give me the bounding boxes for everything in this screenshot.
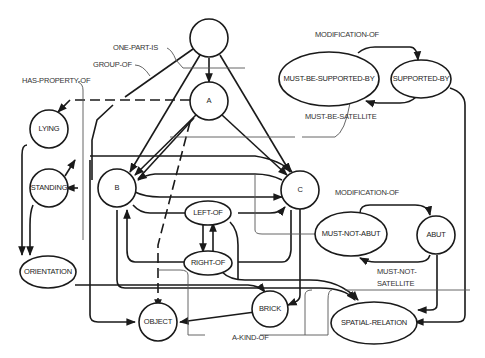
label-has-property-of: HAS-PROPERTY-OF (22, 76, 91, 85)
label-modification-of-bottom: MODIFICATION-OF (335, 188, 400, 197)
node-supported-by[interactable]: SUPPORTED-BY (391, 60, 451, 98)
svg-text:MUST-BE-SUPPORTED-BY: MUST-BE-SUPPORTED-BY (284, 74, 375, 83)
label-must-not-satellite-line2: SATELLITE (377, 279, 414, 288)
node-must-not-abut[interactable]: MUST-NOT-ABUT (315, 212, 387, 256)
svg-text:STANDING: STANDING (31, 183, 68, 192)
node-a[interactable]: A (190, 82, 228, 120)
label-one-part-is: ONE-PART-IS (113, 43, 158, 52)
node-abut[interactable]: ABUT (417, 216, 455, 254)
node-left-of[interactable]: LEFT-OF (185, 201, 231, 225)
label-a-kind-of: A-KIND-OF (232, 333, 269, 342)
node-spatial-relation[interactable]: SPATIAL-RELATION (331, 302, 417, 344)
label-group-of: GROUP-OF (93, 60, 132, 69)
node-lying[interactable]: LYING (30, 110, 68, 148)
node-standing[interactable]: STANDING (30, 169, 68, 207)
svg-text:OBJECT: OBJECT (144, 317, 173, 326)
svg-text:A: A (207, 96, 212, 105)
svg-text:SUPPORTED-BY: SUPPORTED-BY (393, 74, 450, 83)
svg-text:C: C (297, 185, 303, 194)
node-b[interactable]: B (98, 169, 136, 207)
svg-text:LEFT-OF: LEFT-OF (193, 208, 223, 217)
node-c[interactable]: C (281, 171, 319, 209)
svg-text:BRICK: BRICK (259, 304, 281, 313)
node-must-be-supported-by[interactable]: MUST-BE-SUPPORTED-BY (279, 52, 379, 106)
semantic-network-diagram: A B C LYING STANDING ORIENTATION LEFT-OF (0, 0, 485, 358)
node-top[interactable] (190, 19, 228, 57)
svg-text:MUST-NOT-ABUT: MUST-NOT-ABUT (322, 229, 381, 238)
svg-text:SPATIAL-RELATION: SPATIAL-RELATION (341, 318, 407, 327)
svg-text:ORIENTATION: ORIENTATION (24, 267, 72, 276)
node-object[interactable]: OBJECT (139, 303, 177, 341)
node-brick[interactable]: BRICK (252, 291, 288, 327)
label-must-not-satellite-line1: MUST-NOT- (377, 267, 417, 276)
svg-text:B: B (115, 183, 120, 192)
label-must-be-satellite: MUST-BE-SATELLITE (305, 112, 377, 121)
svg-text:LYING: LYING (39, 124, 60, 133)
svg-text:ABUT: ABUT (426, 230, 446, 239)
node-right-of[interactable]: RIGHT-OF (184, 251, 232, 275)
label-modification-of-top: MODIFICATION-OF (315, 30, 380, 39)
svg-text:RIGHT-OF: RIGHT-OF (191, 258, 226, 267)
node-orientation[interactable]: ORIENTATION (20, 256, 76, 288)
